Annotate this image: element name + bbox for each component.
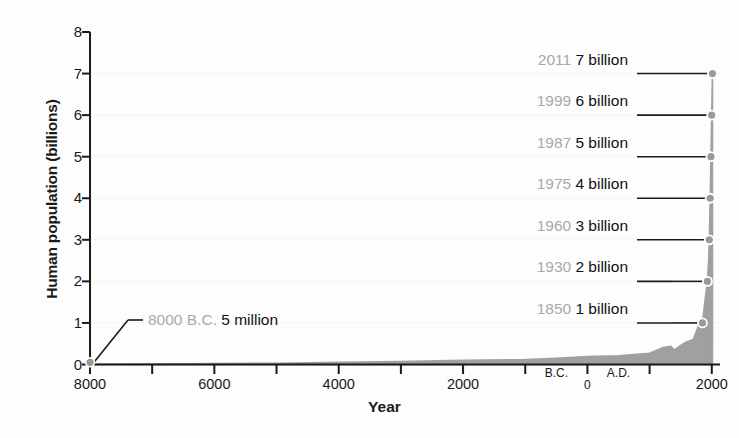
annotation-label: 1975 4 billion [0, 175, 628, 193]
left-leader-line [94, 320, 128, 362]
annotation-label: 1930 2 billion [0, 258, 628, 276]
era-label: B.C. [545, 366, 568, 380]
data-point-marker [706, 236, 713, 243]
annotation-value: 3 billion [575, 217, 628, 234]
annotation-year: 1850 [537, 300, 571, 317]
x-tick-label: 4000 [323, 376, 355, 392]
y-tick-label: 0 [56, 357, 82, 372]
annotation-year: 1999 [537, 92, 571, 109]
left-annotation-year: 8000 B.C. [148, 311, 217, 328]
data-point-marker [704, 278, 711, 285]
annotation-label: 1850 1 billion [0, 300, 628, 318]
annotation-value: 7 billion [575, 51, 628, 68]
data-point-marker [699, 319, 706, 326]
x-tick-label: 2000 [447, 376, 479, 392]
x-tick-label: 0 [584, 378, 591, 392]
data-point-marker [709, 70, 716, 77]
x-tick-label: 2000 [696, 376, 728, 392]
annotation-value: 1 billion [575, 300, 628, 317]
annotation-year: 1960 [537, 217, 571, 234]
annotation-year: 2011 [538, 51, 571, 68]
x-tick-label: 6000 [198, 376, 230, 392]
annotation-label: 1999 6 billion [0, 92, 628, 110]
data-point-marker [707, 153, 714, 160]
left-annotation-label: 8000 B.C. 5 million [148, 311, 278, 329]
annotation-label: 2011 7 billion [0, 51, 628, 69]
annotation-value: 2 billion [575, 258, 628, 275]
annotation-label: 1960 3 billion [0, 217, 628, 235]
annotation-year: 1930 [537, 258, 571, 275]
population-growth-chart: Human population (billions) Year 0123456… [0, 0, 739, 438]
left-annotation-value: 5 million [217, 311, 278, 328]
y-tick-label: 8 [56, 24, 82, 39]
data-point-marker [708, 112, 715, 119]
era-label: A.D. [607, 366, 630, 380]
annotation-year: 1975 [537, 175, 571, 192]
annotation-value: 4 billion [575, 175, 628, 192]
data-point-marker [86, 359, 93, 366]
annotation-year: 1987 [537, 134, 571, 151]
annotation-label: 1987 5 billion [0, 134, 628, 152]
annotation-value: 6 billion [575, 92, 628, 109]
annotation-value: 5 billion [575, 134, 628, 151]
x-tick-label: 8000 [74, 376, 106, 392]
data-point-marker [707, 195, 714, 202]
